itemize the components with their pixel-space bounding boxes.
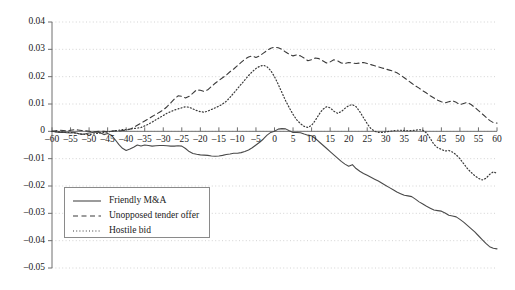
line-chart-plot — [0, 0, 515, 290]
y-axis-tick-label: –0.04 — [0, 235, 45, 245]
y-axis-tick-label: 0.04 — [0, 16, 45, 26]
y-axis-tick-label: 0.03 — [0, 43, 45, 53]
legend-key-solid — [72, 196, 102, 206]
y-axis-tick-label: –0.05 — [0, 262, 45, 272]
legend-label-hostile: Hostile bid — [109, 225, 151, 236]
legend-item-unopposed: Unopposed tender offer — [72, 208, 209, 223]
legend-key-dotted — [72, 226, 102, 236]
legend-item-hostile: Hostile bid — [72, 223, 209, 238]
y-axis-tick-label: 0.01 — [0, 98, 45, 108]
chart-container: Friendly M&A Unopposed tender offer Host… — [0, 0, 515, 290]
y-axis-tick-label: –0.01 — [0, 153, 45, 163]
legend-key-dashed — [72, 211, 102, 221]
y-axis-tick-label: –0.03 — [0, 207, 45, 217]
legend-label-unopposed: Unopposed tender offer — [109, 210, 199, 221]
series-line-dotted — [52, 65, 497, 180]
legend-label-friendly: Friendly M&A — [109, 195, 166, 206]
chart-legend: Friendly M&A Unopposed tender offer Host… — [64, 187, 210, 238]
y-axis-tick-label: 0.02 — [0, 71, 45, 81]
series-line-dashed — [52, 47, 497, 132]
legend-item-friendly: Friendly M&A — [72, 193, 209, 208]
y-axis-tick-label: –0.02 — [0, 180, 45, 190]
x-axis-tick-label: 60 — [483, 134, 511, 144]
